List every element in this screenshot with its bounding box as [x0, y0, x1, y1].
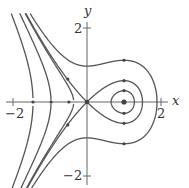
- x-tick-label-neg2: −2: [5, 107, 24, 120]
- left-orbit-3-upper: [11, 13, 33, 98]
- phase-portrait: [0, 0, 189, 188]
- arrow-marker-icon: [50, 100, 53, 103]
- arrow-marker-icon: [122, 122, 125, 125]
- arrow-marker-icon: [31, 100, 34, 103]
- y-tick-label-2: 2: [74, 22, 82, 35]
- x-tick-label-2: 2: [157, 107, 165, 120]
- arrow-marker-icon: [122, 59, 125, 62]
- arrow-marker-icon: [66, 123, 69, 126]
- y-tick-label-neg2: −2: [63, 169, 82, 182]
- x-axis-label: x: [172, 94, 179, 107]
- arrow-marker-icon: [122, 79, 125, 82]
- arrow-marker-icon: [122, 112, 125, 115]
- y-axis-label: y: [84, 4, 91, 17]
- arrow-marker-icon: [122, 142, 125, 145]
- left-orbit-2-lower: [20, 104, 51, 188]
- center-point: [121, 99, 126, 104]
- left-orbit-2-upper: [20, 13, 51, 100]
- arrow-marker-icon: [66, 77, 69, 80]
- arrow-marker-icon: [67, 100, 70, 103]
- saddle-point: [85, 100, 89, 104]
- arrow-marker-icon: [122, 89, 125, 92]
- outer-orbit: [30, 14, 157, 188]
